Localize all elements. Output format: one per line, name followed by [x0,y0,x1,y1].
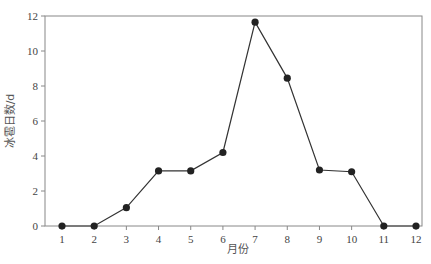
data-point [251,19,258,26]
x-tick-label: 8 [285,233,291,245]
y-tick-label: 10 [27,45,39,57]
x-tick-label: 1 [59,233,65,245]
data-point [380,222,387,229]
data-point [284,75,291,82]
data-point [219,149,226,156]
x-tick-label: 2 [91,233,97,245]
data-point [91,222,98,229]
y-axis-ticks: 024681012 [27,10,45,232]
x-tick-label: 11 [379,233,390,245]
line-chart: 024681012 123456789101112 月份 冰雹日数/d [0,0,431,264]
x-tick-label: 7 [252,233,258,245]
x-tick-label: 10 [346,233,358,245]
series-line [62,22,416,226]
y-tick-label: 4 [33,150,39,162]
y-tick-label: 8 [33,80,39,92]
y-tick-label: 6 [33,115,39,127]
x-tick-label: 4 [156,233,162,245]
data-point [58,222,65,229]
data-point [412,222,419,229]
x-tick-label: 5 [188,233,194,245]
data-point [348,168,355,175]
data-markers [58,19,419,230]
y-axis-label: 冰雹日数/d [4,94,17,149]
x-tick-label: 3 [124,233,130,245]
x-axis-label: 月份 [227,243,249,256]
data-point [316,166,323,173]
x-tick-label: 6 [220,233,226,245]
y-tick-label: 0 [33,220,39,232]
data-point [187,167,194,174]
x-tick-label: 9 [317,233,323,245]
y-tick-label: 12 [27,10,38,22]
y-tick-label: 2 [33,185,39,197]
data-point [123,204,130,211]
x-tick-label: 12 [411,233,422,245]
data-point [155,167,162,174]
